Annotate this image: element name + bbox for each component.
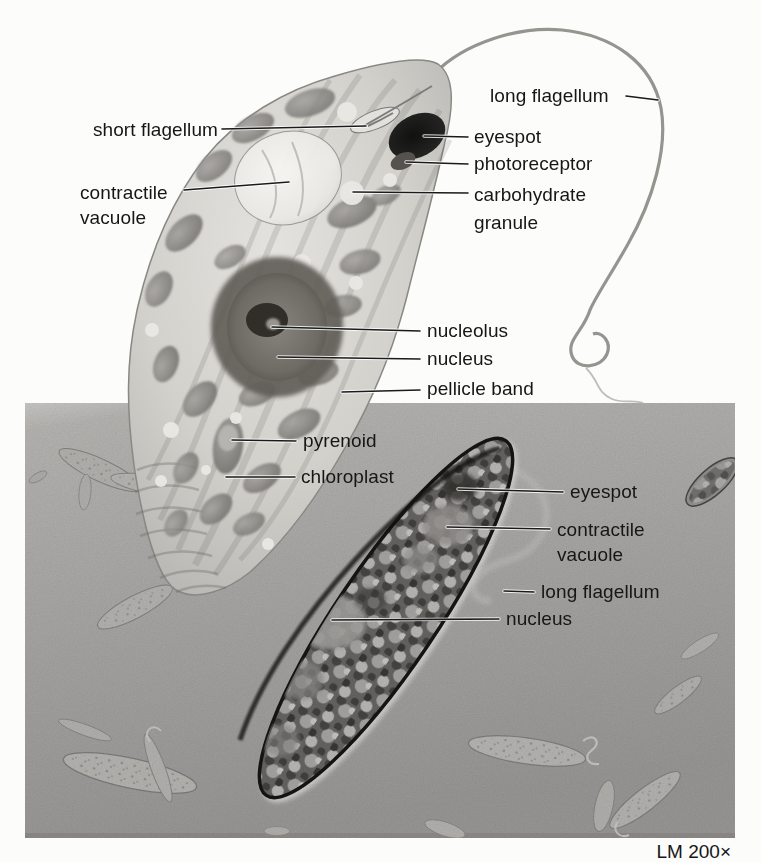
label-long-flagellum: long flagellum [490, 84, 609, 108]
magnification-caption: LM 200× [657, 841, 731, 862]
label-nucleus: nucleus [427, 347, 493, 371]
nucleolus-shape [246, 303, 288, 337]
label-carbohydrate-granule: carbohydrate granule [474, 181, 586, 237]
label-micrograph-eyespot: eyespot [570, 480, 637, 504]
label-nucleolus: nucleolus [427, 319, 508, 343]
label-micrograph-long-flagellum: long flagellum [541, 580, 660, 604]
label-micrograph-contractile-vacuole: contractile vacuole [557, 517, 645, 567]
label-pyrenoid: pyrenoid [303, 429, 377, 453]
label-eyespot: eyespot [474, 125, 541, 149]
label-photoreceptor: photoreceptor [474, 152, 593, 176]
label-chloroplast: chloroplast [301, 465, 394, 489]
label-pellicle-band: pellicle band [427, 377, 534, 401]
figure: short flagellum contractile vacuole long… [0, 0, 761, 862]
label-contractile-vacuole: contractile vacuole [80, 180, 168, 230]
label-micrograph-nucleus: nucleus [506, 607, 572, 631]
label-short-flagellum: short flagellum [93, 118, 218, 142]
